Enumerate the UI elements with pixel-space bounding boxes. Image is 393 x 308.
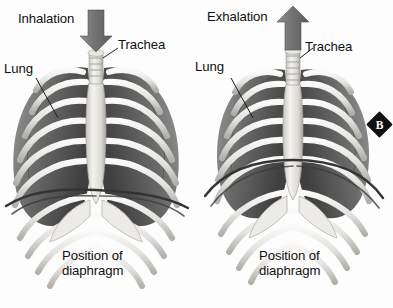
diaphragm-label-line2-exhalation: diaphragm [259,263,320,278]
trachea-exhalation [285,48,301,85]
trachea-label-exhalation: Trachea [305,40,352,55]
inhalation-arrow [80,10,112,52]
phase-label-exhalation: Exhalation [207,10,268,25]
lung-label-inhalation: Lung [4,62,33,77]
diaphragm-label-line1-inhalation: Position of [62,248,122,263]
lung-label-exhalation: Lung [195,60,224,75]
phase-label-inhalation: Inhalation [18,12,74,27]
trachea-leader-line-inhalation [103,48,118,58]
trachea-inhalation [88,50,104,84]
sternum-exhalation [283,84,303,200]
panel-inhalation: Inhalation Lung Trachea Position of diap… [0,0,196,308]
panel-marker-b: B [370,115,389,134]
trachea-label-inhalation: Trachea [118,38,165,53]
diaphragm-label-line1-exhalation: Position of [259,248,319,263]
panel-exhalation: Exhalation Lung Trachea Position of diap… [197,0,393,308]
sternum-inhalation [86,83,106,204]
panel-marker-letter: B [376,119,384,131]
breathing-diagram: Inhalation Lung Trachea Position of diap… [0,0,393,308]
diaphragm-label-line2-inhalation: diaphragm [62,263,123,278]
